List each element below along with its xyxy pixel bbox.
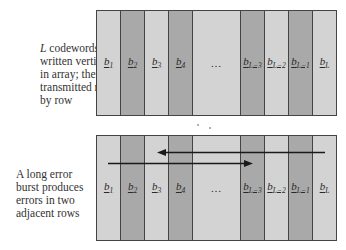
burst-row-upper-arrow-icon — [157, 149, 325, 156]
burst-row-lower-arrow-icon — [108, 160, 253, 167]
burst-arrows — [0, 0, 346, 250]
